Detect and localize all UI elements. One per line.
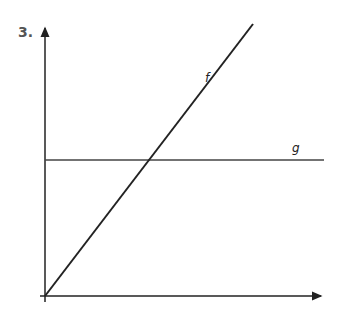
label-g: g <box>292 141 300 155</box>
label-f: f <box>205 71 211 85</box>
graph: f g <box>0 0 346 310</box>
